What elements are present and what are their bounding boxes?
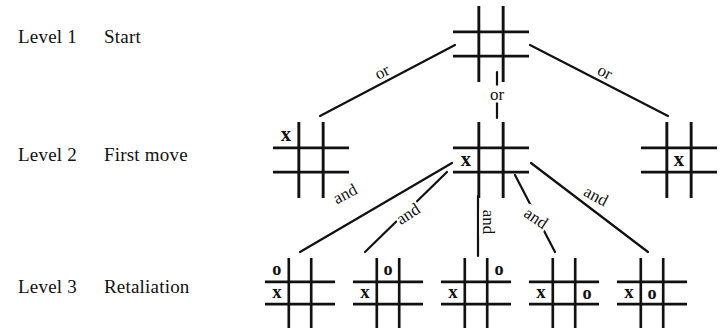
tree-edge-line xyxy=(530,45,668,116)
x-mark-icon: x xyxy=(668,149,691,170)
tree-edge-line xyxy=(320,45,455,116)
o-mark-icon: o xyxy=(642,284,663,302)
level-number: Level 3 xyxy=(18,276,104,298)
edge-label-mid-to-child-5: and xyxy=(580,182,611,209)
diagram-canvas: Level 1StartLevel 2First moveLevel 3Reta… xyxy=(0,0,722,334)
x-mark-icon: x xyxy=(266,283,287,302)
tree-edge-line xyxy=(531,163,648,252)
edge-label-root-to-middle: or xyxy=(489,86,505,103)
tic-tac-toe-board-board-root xyxy=(453,6,529,82)
edge-label-mid-to-child-3: and xyxy=(480,209,497,236)
level-number: Level 1 xyxy=(18,26,104,48)
level-label-level-3: Level 3Retaliation xyxy=(18,276,190,298)
tic-tac-toe-board-board-L3-3: ox xyxy=(441,258,511,328)
x-mark-icon: x xyxy=(354,283,375,302)
x-mark-icon: x xyxy=(275,124,298,145)
level-title: Start xyxy=(104,26,141,47)
tic-tac-toe-board-board-L3-5: xo xyxy=(617,258,687,328)
x-mark-icon: x xyxy=(442,283,463,302)
level-number: Level 2 xyxy=(18,144,104,166)
o-mark-icon: o xyxy=(266,260,287,278)
tic-tac-toe-board-board-L2-edge: x xyxy=(453,122,529,198)
tic-tac-toe-board-board-L2-center: x xyxy=(641,122,717,198)
o-mark-icon: o xyxy=(489,260,510,278)
edge-label-mid-to-child-2: and xyxy=(392,200,424,229)
level-title: Retaliation xyxy=(104,276,190,297)
board-grid-icon xyxy=(453,6,529,82)
level-label-level-1: Level 1Start xyxy=(18,26,141,48)
o-mark-icon: o xyxy=(378,260,399,278)
x-mark-icon: x xyxy=(530,283,551,302)
tic-tac-toe-board-board-L3-2: ox xyxy=(353,258,423,328)
x-mark-icon: x xyxy=(455,149,478,170)
tic-tac-toe-board-board-L3-4: xo xyxy=(529,258,599,328)
o-mark-icon: o xyxy=(577,284,598,302)
edge-label-root-to-left: or xyxy=(371,61,393,83)
tic-tac-toe-board-board-L3-1: ox xyxy=(265,258,335,328)
x-mark-icon: x xyxy=(618,283,639,302)
level-label-level-2: Level 2First move xyxy=(18,144,188,166)
edge-label-root-to-right: or xyxy=(594,61,616,83)
edge-label-mid-to-child-4: and xyxy=(520,204,552,233)
level-title: First move xyxy=(104,144,188,165)
